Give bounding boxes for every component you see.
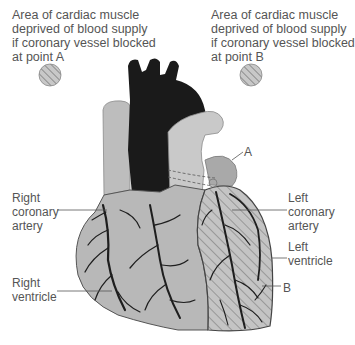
leader-a <box>232 152 243 160</box>
left-auricle <box>205 156 237 186</box>
vena-cava <box>103 101 130 195</box>
hatched-swatch-b <box>240 64 262 86</box>
left-ventricle-hatched <box>197 186 272 331</box>
hatched-swatch-a <box>39 64 61 86</box>
